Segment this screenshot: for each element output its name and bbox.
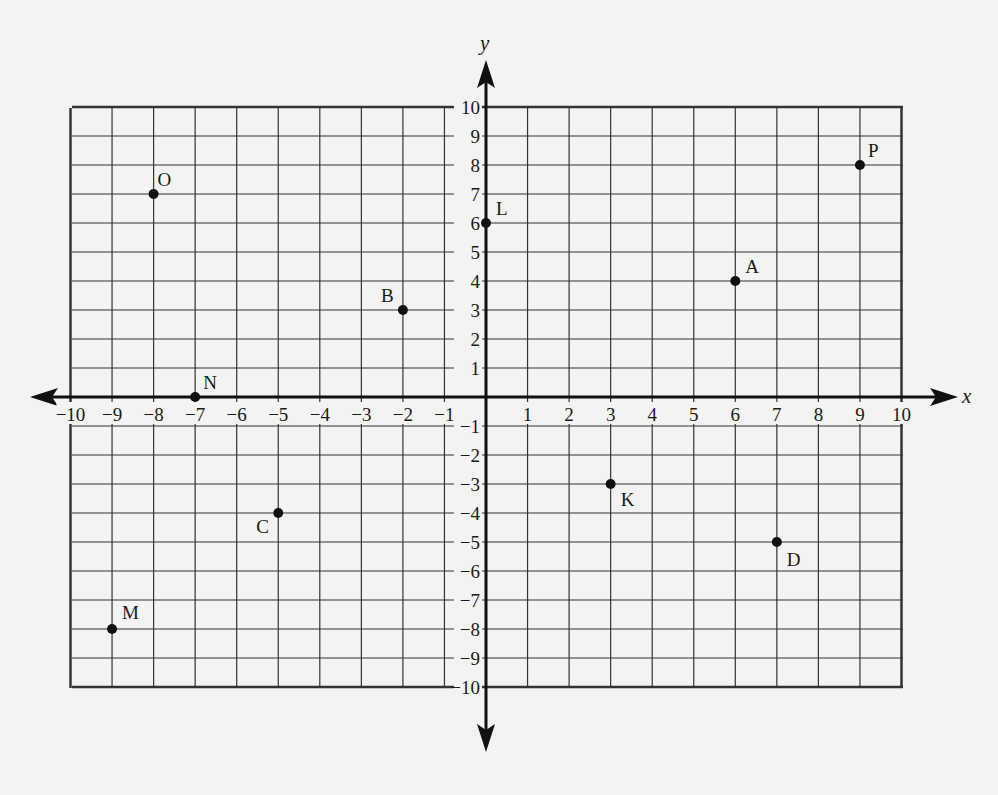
y-tick-label: 3 — [471, 300, 481, 321]
y-tick-label: 8 — [471, 155, 481, 176]
x-tick-label: 4 — [647, 404, 657, 425]
y-tick-label: −8 — [460, 619, 480, 640]
point-label: B — [381, 285, 394, 306]
point-marker-icon — [149, 189, 159, 199]
point-label: N — [203, 372, 217, 393]
x-tick-label: −9 — [102, 404, 122, 425]
y-axis-label: y — [478, 31, 490, 55]
point-label: L — [496, 198, 508, 219]
x-tick-label: −7 — [185, 404, 205, 425]
point-label: K — [621, 489, 635, 510]
x-tick-label: 2 — [564, 404, 574, 425]
y-tick-label: −4 — [460, 503, 481, 524]
y-tick-label: −5 — [460, 532, 480, 553]
x-tick-label: −8 — [143, 404, 163, 425]
x-tick-label: −4 — [310, 404, 331, 425]
y-tick-label: −2 — [460, 445, 480, 466]
x-tick-label: 6 — [731, 404, 741, 425]
y-tick-label: 4 — [471, 271, 481, 292]
y-tick-label: −9 — [460, 648, 480, 669]
y-tick-label: −6 — [460, 561, 480, 582]
axes: x y — [30, 31, 972, 752]
x-tick-label: 7 — [772, 404, 782, 425]
y-tick-label: −7 — [460, 590, 480, 611]
point-label: P — [868, 140, 879, 161]
x-axis-label: x — [961, 384, 972, 408]
point-marker-icon — [398, 305, 408, 315]
x-tick-label: 3 — [606, 404, 616, 425]
x-tick-label: 1 — [523, 404, 533, 425]
x-tick-label: 10 — [892, 404, 911, 425]
y-tick-label: 10 — [461, 97, 480, 118]
point-marker-icon — [730, 276, 740, 286]
y-tick-label: 6 — [471, 213, 481, 234]
point-marker-icon — [273, 508, 283, 518]
y-tick-label: 9 — [471, 126, 481, 147]
point-marker-icon — [481, 218, 491, 228]
point-label: C — [256, 516, 269, 537]
point-marker-icon — [107, 624, 117, 634]
point-label: D — [787, 549, 801, 570]
x-tick-label: 9 — [855, 404, 865, 425]
point-c: C — [256, 508, 283, 537]
y-tick-label: −3 — [460, 474, 480, 495]
y-tick-label: 2 — [471, 329, 481, 350]
point-marker-icon — [772, 537, 782, 547]
x-tick-label: −3 — [351, 404, 371, 425]
y-tick-label: 7 — [471, 184, 481, 205]
x-tick-label: −1 — [434, 404, 454, 425]
x-tick-label: −2 — [393, 404, 413, 425]
y-tick-label: −10 — [450, 677, 480, 698]
x-tick-label: −10 — [56, 404, 86, 425]
y-tick-label: 1 — [471, 358, 481, 379]
x-tick-label: −5 — [268, 404, 288, 425]
point-marker-icon — [190, 392, 200, 402]
point-label: O — [158, 169, 172, 190]
point-marker-icon — [606, 479, 616, 489]
y-tick-label: −1 — [460, 416, 480, 437]
point-label: A — [745, 256, 759, 277]
x-tick-label: 5 — [689, 404, 699, 425]
x-tick-label: 8 — [814, 404, 824, 425]
point-label: M — [122, 602, 139, 623]
plotted-points: ABCDKLMNOP — [107, 140, 878, 634]
point-marker-icon — [855, 160, 865, 170]
coordinate-plane: x y −10−9−8−7−6−5−4−3−2−1123456789101098… — [0, 0, 998, 795]
y-tick-label: 5 — [471, 242, 481, 263]
x-tick-label: −6 — [227, 404, 247, 425]
